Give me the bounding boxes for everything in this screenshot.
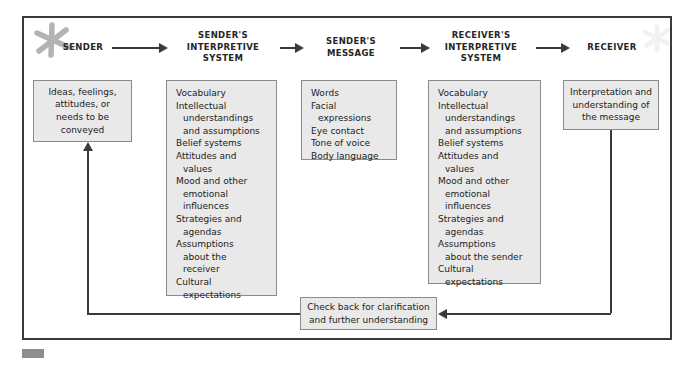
- box-receiver: Interpretation andunderstanding ofthe me…: [563, 80, 659, 130]
- box-line: Intellectual: [438, 100, 533, 113]
- box-line: Cultural: [176, 276, 269, 289]
- box-line: values: [176, 163, 269, 176]
- box-line: expectations: [438, 276, 533, 289]
- box-line: Cultural: [438, 263, 533, 276]
- diagram-frame: [22, 16, 672, 340]
- box-line: needs to be: [48, 111, 116, 124]
- box-line: Check back for clarification: [307, 301, 430, 314]
- box-line: Tone of voice: [311, 137, 389, 150]
- box-line: the message: [570, 111, 652, 124]
- box-line: and assumptions: [438, 125, 533, 138]
- box-line: agendas: [438, 226, 533, 239]
- box-line: Vocabulary: [438, 87, 533, 100]
- box-line: conveyed: [48, 124, 116, 137]
- box-line: Attitudes and: [438, 150, 533, 163]
- box-line: Assumptions: [438, 238, 533, 251]
- box-receiver-interpretive-system: VocabularyIntellectualunderstandingsand …: [428, 80, 541, 284]
- flow-arrow-ris-to-receiver: [536, 42, 570, 54]
- box-feedback-check-back: Check back for clarificationand further …: [300, 297, 437, 330]
- box-line: Ideas, feelings,: [48, 86, 116, 99]
- box-line: Body language: [311, 150, 389, 163]
- box-line: Belief systems: [176, 137, 269, 150]
- box-line: and assumptions: [176, 125, 269, 138]
- box-line: understandings: [176, 112, 269, 125]
- box-line: values: [438, 163, 533, 176]
- box-line: understanding of: [570, 99, 652, 112]
- box-senders-message: WordsFacialexpressionsEye contactTone of…: [301, 80, 397, 160]
- box-line: expressions: [311, 112, 389, 125]
- feedback-line-up-to-sender: [87, 150, 89, 314]
- box-line: Mood and other: [176, 175, 269, 188]
- box-sender-text: Ideas, feelings,attitudes, orneeds to be…: [48, 86, 116, 136]
- feedback-arrowhead-into-box: [438, 309, 447, 319]
- box-line: emotional: [176, 188, 269, 201]
- box-line: Attitudes and: [176, 150, 269, 163]
- column-heading-senders-message: SENDER'SMESSAGE: [304, 36, 398, 59]
- box-line: Words: [311, 87, 389, 100]
- corner-mark-icon: [22, 349, 44, 358]
- box-line: receiver: [176, 263, 269, 276]
- box-line: understandings: [438, 112, 533, 125]
- box-line: Belief systems: [438, 137, 533, 150]
- feedback-line-receiver-down: [610, 130, 612, 313]
- box-line: influences: [438, 200, 533, 213]
- feedback-arrowhead-into-sender: [83, 142, 93, 151]
- box-line: Interpretation and: [570, 86, 652, 99]
- box-line: Vocabulary: [176, 87, 269, 100]
- box-line: Facial: [311, 100, 389, 113]
- column-heading-sender-interpretive-system: SENDER'SINTERPRETIVESYSTEM: [170, 30, 276, 65]
- feedback-line-to-box-right: [447, 313, 611, 315]
- box-line: expectations: [176, 289, 269, 302]
- box-line: influences: [176, 200, 269, 213]
- column-heading-receiver-interpretive-system: RECEIVER'SINTERPRETIVESYSTEM: [428, 30, 534, 65]
- column-heading-receiver: RECEIVER: [566, 42, 658, 54]
- box-line: and further understanding: [307, 314, 430, 327]
- box-line: about the: [176, 251, 269, 264]
- box-sender: Ideas, feelings,attitudes, orneeds to be…: [33, 80, 132, 142]
- box-line: Strategies and: [438, 213, 533, 226]
- box-line: attitudes, or: [48, 98, 116, 111]
- box-line: Mood and other: [438, 175, 533, 188]
- box-line: emotional: [438, 188, 533, 201]
- flow-arrow-sis-to-message: [280, 42, 304, 54]
- feedback-line-to-left: [87, 313, 300, 315]
- box-line: agendas: [176, 226, 269, 239]
- box-line: Assumptions: [176, 238, 269, 251]
- diagram-canvas: SENDER SENDER'SINTERPRETIVESYSTEM SENDER…: [0, 0, 696, 370]
- box-receiver-text: Interpretation andunderstanding ofthe me…: [570, 86, 652, 124]
- flow-arrow-message-to-ris: [400, 42, 430, 54]
- flow-arrow-sender-to-sis: [112, 42, 168, 54]
- box-line: about the sender: [438, 251, 533, 264]
- box-line: Strategies and: [176, 213, 269, 226]
- box-feedback-text: Check back for clarificationand further …: [307, 301, 430, 326]
- box-line: Intellectual: [176, 100, 269, 113]
- box-sender-interpretive-system: VocabularyIntellectualunderstandingsand …: [166, 80, 277, 296]
- box-line: Eye contact: [311, 125, 389, 138]
